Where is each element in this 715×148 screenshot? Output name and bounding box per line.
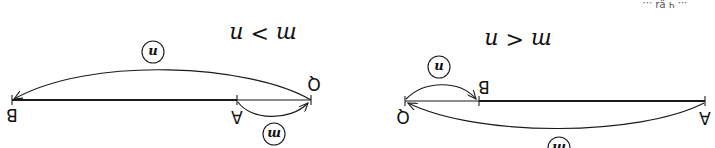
relation-label: m > n bbox=[229, 22, 296, 47]
arc-a-to-q bbox=[238, 102, 308, 116]
point-label-a: A bbox=[231, 107, 243, 127]
arc-label-n: n bbox=[142, 41, 164, 63]
svg-text:m: m bbox=[552, 141, 566, 148]
point-label-q: Q bbox=[307, 74, 320, 94]
arc-a-to-q bbox=[408, 103, 704, 129]
svg-text:m: m bbox=[267, 127, 281, 142]
arc-label-m: m bbox=[263, 123, 285, 145]
cropped-text-fragment: ... ч ɐ̤ɹ ... bbox=[643, 0, 688, 11]
diagram-canvas: B A Q n m m > n bbox=[0, 0, 715, 148]
relation-label: m < n bbox=[484, 28, 551, 53]
arc-label-n: n bbox=[428, 56, 450, 78]
arc-q-to-b bbox=[406, 85, 476, 99]
right-diagram: Q B A n m m < n bbox=[396, 28, 711, 148]
arc-label-m: m bbox=[548, 137, 570, 148]
point-label-b: B bbox=[478, 77, 490, 97]
svg-text:n: n bbox=[148, 45, 157, 60]
point-label-q: Q bbox=[396, 107, 409, 127]
svg-text:n: n bbox=[434, 60, 443, 75]
point-label-b: B bbox=[6, 105, 18, 125]
arc-q-to-b bbox=[14, 70, 311, 100]
left-diagram: B A Q n m m > n bbox=[6, 22, 321, 145]
point-label-a: A bbox=[699, 108, 711, 128]
